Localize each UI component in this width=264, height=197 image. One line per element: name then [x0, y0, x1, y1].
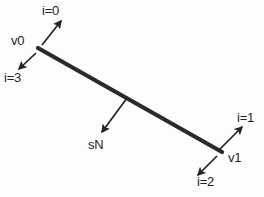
label-i2: i=2: [197, 175, 214, 188]
label-i3: i=3: [4, 71, 21, 84]
label-normal-sn: sN: [88, 138, 104, 151]
diagram-svg: [0, 0, 264, 197]
label-v0: v0: [11, 34, 24, 47]
caption-fragment: [16, 188, 248, 194]
figure-canvas: i=0 v0 i=3 sN i=1 v1 i=2: [0, 0, 264, 197]
normal-arrow-icon: [102, 98, 127, 132]
i1-arrow-icon: [219, 127, 242, 150]
i3-arrow-icon: [19, 53, 36, 69]
i2-arrow-icon: [198, 156, 217, 175]
label-i0: i=0: [42, 4, 59, 17]
edge-line-v0-v1: [38, 48, 222, 152]
label-v1: v1: [228, 151, 241, 164]
i0-arrow-icon: [42, 21, 61, 45]
label-i1: i=1: [237, 111, 254, 124]
